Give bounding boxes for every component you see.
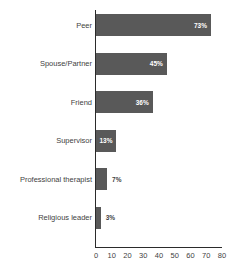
x-axis-tick-label: 30 — [139, 251, 147, 260]
bar-value-label: 36% — [96, 91, 153, 113]
bar — [96, 168, 107, 190]
bar-value-label: 13% — [96, 130, 116, 152]
category-label: Spouse/Partner — [4, 59, 92, 68]
bar-row: Professional therapist7% — [0, 168, 229, 190]
bar-chart: Peer73%Spouse/Partner45%Friend36%Supervi… — [0, 0, 229, 268]
category-label: Friend — [4, 98, 92, 107]
x-axis-tick-labels: 01020304050607080 — [0, 251, 229, 265]
x-axis-tick-label: 10 — [108, 251, 116, 260]
bar-value-label: 7% — [112, 168, 121, 190]
bar-row: Supervisor13% — [0, 130, 229, 152]
x-axis-line — [95, 247, 222, 248]
bar-row: Peer73% — [0, 14, 229, 36]
category-label: Professional therapist — [4, 175, 92, 184]
x-axis-tick-label: 60 — [186, 251, 194, 260]
bar — [96, 207, 101, 229]
category-label: Peer — [4, 21, 92, 30]
bar-value-label: 73% — [96, 14, 211, 36]
x-axis-tick-label: 70 — [202, 251, 210, 260]
x-axis-tick-label: 50 — [171, 251, 179, 260]
category-label: Supervisor — [4, 136, 92, 145]
bar-row: Spouse/Partner45% — [0, 53, 229, 75]
x-axis-tick-label: 40 — [155, 251, 163, 260]
bar-row: Religious leader3% — [0, 207, 229, 229]
y-axis-line — [95, 10, 96, 248]
bar-value-label: 3% — [106, 207, 115, 229]
x-axis-tick-label: 20 — [123, 251, 131, 260]
bar-row: Friend36% — [0, 91, 229, 113]
category-label: Religious leader — [4, 213, 92, 222]
plot-area: Peer73%Spouse/Partner45%Friend36%Supervi… — [0, 10, 229, 246]
x-axis-tick-label: 0 — [94, 251, 98, 260]
bar-value-label: 45% — [96, 53, 167, 75]
x-axis-tick-label: 80 — [218, 251, 226, 260]
